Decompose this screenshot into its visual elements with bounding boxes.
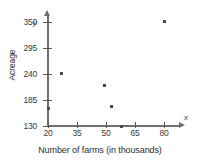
x-tick-label: 80: [152, 128, 176, 138]
scatter-plot: y x 1301852402953502035506580 Acreage Nu…: [0, 0, 200, 168]
data-point: [163, 20, 166, 23]
data-point: [60, 72, 63, 75]
y-tick: [43, 100, 52, 101]
x-tick-label: 35: [65, 128, 89, 138]
data-point: [103, 84, 106, 87]
y-tick-label: 130: [11, 121, 37, 131]
y-axis-line: [47, 16, 49, 127]
y-axis-arrow-icon: [44, 10, 50, 16]
y-tick: [43, 22, 52, 23]
x-tick-label: 65: [123, 128, 147, 138]
x-axis-title: Number of farms (in thousands): [0, 145, 200, 155]
x-tick-label: 50: [94, 128, 118, 138]
y-tick: [43, 48, 52, 49]
x-axis-line: [47, 125, 181, 127]
y-tick: [43, 74, 52, 75]
y-axis-title: Acreage: [7, 30, 17, 100]
x-axis-symbol: x: [184, 113, 188, 122]
data-point: [120, 125, 123, 128]
data-point: [47, 107, 50, 110]
x-axis-arrow-icon: [179, 122, 185, 128]
x-tick-label: 20: [36, 128, 60, 138]
data-point: [110, 105, 113, 108]
y-tick-label: 350: [11, 17, 37, 27]
